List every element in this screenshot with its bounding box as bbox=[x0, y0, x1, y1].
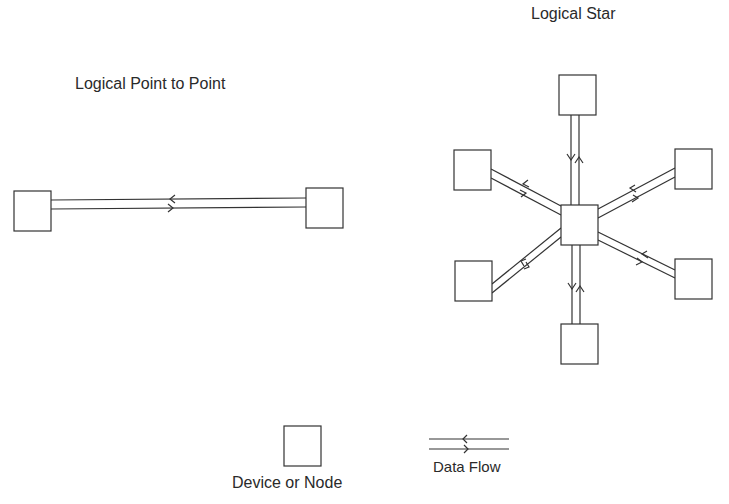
flow-line-lower bbox=[51, 207, 306, 209]
star-nodes bbox=[454, 75, 712, 364]
node-upper-left bbox=[454, 150, 491, 190]
node-bottom bbox=[561, 324, 598, 364]
node-right bbox=[306, 188, 343, 228]
node-upper-right bbox=[675, 149, 712, 189]
node-lower-left bbox=[455, 261, 492, 301]
node-lower-right bbox=[675, 259, 712, 299]
node-left bbox=[14, 191, 51, 231]
legend-node-icon bbox=[284, 426, 321, 466]
legend-node-label: Device or Node bbox=[232, 474, 342, 492]
title-point-to-point: Logical Point to Point bbox=[75, 75, 225, 93]
legend-flow-label: Data Flow bbox=[433, 458, 501, 475]
point-to-point-diagram bbox=[14, 188, 343, 231]
flow-line-upper bbox=[51, 198, 306, 200]
node-top bbox=[559, 75, 596, 115]
title-logical-star: Logical Star bbox=[531, 5, 616, 23]
node-hub bbox=[561, 205, 598, 245]
